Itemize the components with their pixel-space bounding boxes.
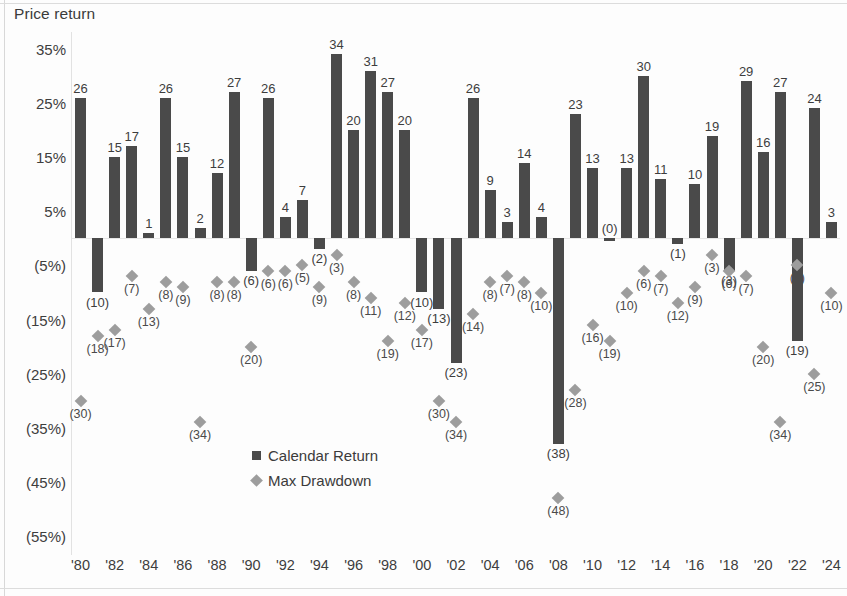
bar: [195, 228, 206, 239]
drawdown-value-label: (13): [138, 315, 160, 329]
bar: [638, 76, 649, 238]
x-axis-tick: '14: [651, 557, 670, 573]
x-axis-tick: '88: [208, 557, 227, 573]
bar-value-label: 3: [828, 205, 835, 220]
bar: [280, 217, 291, 239]
bar-value-label: 26: [261, 81, 275, 96]
drawdown-marker: [450, 416, 463, 429]
drawdown-value-label: (48): [547, 504, 569, 518]
bar-value-label: 12: [210, 156, 224, 171]
drawdown-value-label: (19): [377, 347, 399, 361]
drawdown-value-label: (34): [769, 428, 791, 442]
bar-value-label: 29: [739, 64, 753, 79]
drawdown-marker: [518, 275, 531, 288]
drawdown-marker: [620, 286, 633, 299]
bar: [775, 92, 786, 238]
drawdown-value-label: (14): [462, 320, 484, 334]
bar: [365, 71, 376, 239]
bar-value-label: 11: [654, 162, 668, 177]
bar-value-label: 27: [227, 75, 241, 90]
bar-value-label: 10: [688, 167, 702, 182]
bar-value-label: (38): [547, 446, 570, 461]
drawdown-value-label: (19): [598, 347, 620, 361]
drawdown-value-label: (25): [803, 380, 825, 394]
drawdown-marker: [740, 270, 753, 283]
bar-value-label: 15: [176, 140, 190, 155]
drawdown-value-label: (30): [428, 407, 450, 421]
drawdown-value-label: (7): [738, 282, 753, 296]
bar: [792, 238, 803, 341]
bar-value-label: (13): [427, 311, 450, 326]
x-axis-tick: '04: [481, 557, 500, 573]
bar: [160, 98, 171, 239]
drawdown-value-label: (3): [329, 261, 344, 275]
drawdown-marker: [398, 297, 411, 310]
drawdown-value-label: (6): [721, 277, 736, 291]
drawdown-marker: [142, 302, 155, 315]
bar-value-label: 4: [538, 200, 545, 215]
bar: [92, 238, 103, 292]
bar: [689, 184, 700, 238]
drawdown-value-label: (7): [653, 282, 668, 296]
drawdown-value-label: (8): [158, 288, 173, 302]
drawdown-marker: [586, 319, 599, 332]
bar: [75, 98, 86, 239]
drawdown-marker: [313, 281, 326, 294]
drawdown-value-label: (5): [790, 271, 805, 285]
drawdown-marker: [245, 340, 258, 353]
chart-legend: Calendar Return Max Drawdown: [252, 443, 378, 493]
x-axis-tick: '96: [344, 557, 363, 573]
x-axis-tick: '12: [617, 557, 636, 573]
bar: [109, 157, 120, 238]
bar-value-label: 13: [619, 151, 633, 166]
x-axis-tick: '02: [447, 557, 466, 573]
drawdown-marker: [159, 275, 172, 288]
y-axis-tick: (55%): [26, 528, 66, 545]
y-axis-tick: (35%): [26, 419, 66, 436]
bar-value-label: 7: [299, 183, 306, 198]
bar: [433, 238, 444, 308]
drawdown-value-label: (8): [346, 288, 361, 302]
bar-value-label: 26: [466, 81, 480, 96]
bar: [485, 190, 496, 239]
y-axis-tick: (5%): [34, 257, 66, 274]
bar-value-label: (1): [670, 246, 686, 261]
square-marker-icon: [252, 451, 261, 460]
drawdown-marker: [262, 264, 275, 277]
bar: [382, 92, 393, 238]
bar: [468, 98, 479, 239]
drawdown-marker: [415, 324, 428, 337]
x-axis-tick: '08: [549, 557, 568, 573]
drawdown-value-label: (34): [189, 428, 211, 442]
drawdown-marker: [774, 416, 787, 429]
drawdown-marker: [689, 281, 702, 294]
bar: [604, 238, 615, 241]
y-axis-tick: (45%): [26, 473, 66, 490]
bar: [126, 146, 137, 238]
drawdown-value-label: (30): [69, 407, 91, 421]
x-axis-tick: '20: [754, 557, 773, 573]
drawdown-value-label: (9): [687, 293, 702, 307]
bar-value-label: 17: [124, 129, 138, 144]
drawdown-value-label: (12): [394, 309, 416, 323]
plot-area: 26(10)15171261521227(6)2647(2)3420312720…: [72, 30, 840, 555]
bar-value-label: 27: [773, 75, 787, 90]
bar-value-label: 4: [282, 200, 289, 215]
drawdown-value-label: (8): [209, 288, 224, 302]
bar: [536, 217, 547, 239]
bar: [348, 130, 359, 238]
drawdown-marker: [467, 308, 480, 321]
x-axis-tick: '06: [515, 557, 534, 573]
y-axis-tick-labels: 35%25%15%5%(5%)(15%)(25%)(35%)(45%)(55%): [0, 0, 66, 596]
drawdown-marker: [108, 324, 121, 337]
drawdown-value-label: (10): [616, 299, 638, 313]
bar-value-label: 27: [380, 75, 394, 90]
drawdown-marker: [177, 281, 190, 294]
x-axis-tick: '86: [173, 557, 192, 573]
bar-value-label: 15: [107, 140, 121, 155]
y-axis-tick: 15%: [36, 149, 66, 166]
x-axis-tick: '82: [105, 557, 124, 573]
bar-value-label: (10): [410, 295, 433, 310]
bar-value-label: 20: [346, 113, 360, 128]
bar-value-label: 3: [504, 205, 511, 220]
